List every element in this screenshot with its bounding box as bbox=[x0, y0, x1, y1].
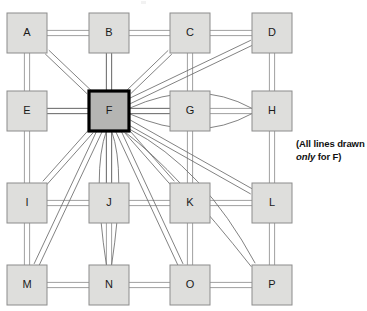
node-a[interactable]: A bbox=[7, 13, 47, 53]
legend-emphasis: only bbox=[296, 151, 315, 162]
node-n[interactable]: N bbox=[89, 265, 129, 305]
node-label: M bbox=[22, 278, 31, 290]
link-line bbox=[45, 54, 87, 94]
node-label: O bbox=[186, 278, 195, 290]
node-f[interactable]: F bbox=[89, 91, 129, 131]
legend-line-2-suffix: for F) bbox=[315, 151, 341, 162]
legend-line-1: (All lines drawn bbox=[296, 138, 365, 149]
node-p[interactable]: P bbox=[252, 265, 292, 305]
node-label: K bbox=[186, 196, 194, 208]
node-label: D bbox=[268, 26, 276, 38]
node-label: F bbox=[106, 104, 113, 116]
node-l[interactable]: L bbox=[252, 183, 292, 223]
diagram-page: ABCDEFGHIJKLMNOP (All lines drawn only f… bbox=[0, 0, 367, 311]
node-o[interactable]: O bbox=[170, 265, 210, 305]
node-c[interactable]: C bbox=[170, 13, 210, 53]
link-line bbox=[49, 50, 91, 90]
node-k[interactable]: K bbox=[170, 183, 210, 223]
node-i[interactable]: I bbox=[7, 183, 47, 223]
node-d[interactable]: D bbox=[252, 13, 292, 53]
node-j[interactable]: J bbox=[89, 183, 129, 223]
node-label: C bbox=[186, 26, 194, 38]
node-label: L bbox=[269, 196, 275, 208]
link-line bbox=[125, 133, 171, 185]
node-g[interactable]: G bbox=[170, 91, 210, 131]
link-line bbox=[127, 50, 168, 89]
link-line bbox=[47, 133, 93, 185]
node-label: A bbox=[23, 26, 31, 38]
nodes-layer: ABCDEFGHIJKLMNOP bbox=[7, 13, 292, 305]
node-label: I bbox=[25, 196, 28, 208]
node-b[interactable]: B bbox=[89, 13, 129, 53]
node-label: E bbox=[23, 104, 30, 116]
source-links-layer bbox=[34, 40, 255, 267]
node-label: H bbox=[268, 104, 276, 116]
node-label: J bbox=[106, 196, 112, 208]
legend-note: (All lines drawn only for F) bbox=[296, 138, 367, 163]
node-label: P bbox=[268, 278, 275, 290]
node-m[interactable]: M bbox=[7, 265, 47, 305]
node-h[interactable]: H bbox=[252, 91, 292, 131]
node-label: G bbox=[186, 104, 195, 116]
node-label: B bbox=[105, 26, 112, 38]
node-label: N bbox=[105, 278, 113, 290]
node-e[interactable]: E bbox=[7, 91, 47, 131]
